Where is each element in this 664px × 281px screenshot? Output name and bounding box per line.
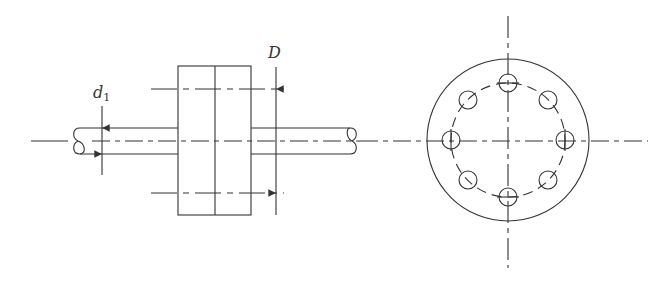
- bolt-hole: [459, 91, 477, 109]
- side-view: [31, 66, 360, 215]
- end-view: [360, 16, 648, 268]
- bolt-hole: [539, 171, 557, 189]
- d1-label: d1: [93, 83, 110, 104]
- break-symbol-left: [74, 128, 85, 154]
- coupling-diagram: d1 D: [0, 0, 664, 281]
- D-label: D: [267, 43, 281, 62]
